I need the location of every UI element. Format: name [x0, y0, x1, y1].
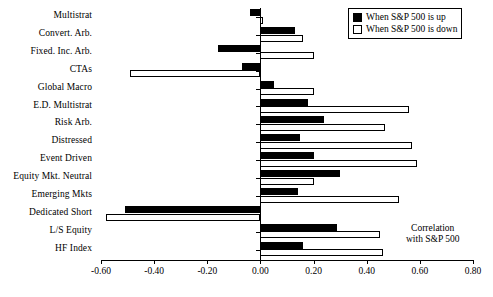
bar-sp500-up	[242, 63, 261, 70]
legend-swatch-up-icon	[353, 13, 362, 22]
category-axis-labels: MultistratConvert. Arb.Fixed. Inc. Arb.C…	[0, 0, 96, 260]
category-label: Fixed. Inc. Arb.	[31, 46, 93, 56]
category-tick	[256, 250, 260, 251]
legend-label-up: When S&P 500 is up	[366, 11, 446, 23]
bar-sp500-up	[260, 152, 313, 159]
legend-item-down: When S&P 500 is down	[353, 23, 457, 35]
bar-sp500-up	[260, 224, 337, 231]
category-tick	[256, 53, 260, 54]
bar-sp500-down	[260, 142, 411, 149]
x-axis-tick-label: 0.40	[358, 266, 375, 277]
category-label: Multistrat	[54, 10, 92, 20]
category-tick	[256, 214, 260, 215]
bar-sp500-up	[260, 81, 273, 88]
bar-sp500-down	[260, 231, 380, 238]
bar-sp500-up	[260, 134, 300, 141]
category-tick	[256, 106, 260, 107]
category-label: Emerging Mkts	[32, 189, 93, 199]
category-tick	[256, 142, 260, 143]
bar-sp500-down	[260, 249, 382, 256]
category-tick	[256, 196, 260, 197]
category-label: Dedicated Short	[29, 207, 92, 217]
category-tick	[256, 178, 260, 179]
bar-sp500-down	[260, 160, 417, 167]
legend-swatch-down-icon	[353, 25, 362, 34]
category-label: E.D. Multistrat	[33, 100, 92, 110]
x-axis-tick-label: 0.80	[465, 266, 482, 277]
x-axis-tick-label: -0.40	[144, 266, 164, 277]
x-axis-tick	[207, 260, 208, 264]
correlation-bar-chart: MultistratConvert. Arb.Fixed. Inc. Arb.C…	[0, 0, 493, 297]
category-label: CTAs	[70, 64, 92, 74]
category-tick	[256, 124, 260, 125]
x-axis-tick	[260, 260, 261, 264]
category-label: HF Index	[55, 243, 92, 253]
x-axis-tick-label: 0.20	[305, 266, 322, 277]
bar-sp500-down	[130, 70, 260, 77]
bar-sp500-up	[260, 170, 340, 177]
zero-axis-line	[260, 8, 261, 260]
category-label: Global Macro	[38, 82, 92, 92]
bar-sp500-down	[260, 196, 398, 203]
category-label: Convert. Arb.	[39, 28, 92, 38]
axis-annotation: Correlation with S&P 500	[406, 223, 460, 245]
x-axis-tick	[314, 260, 315, 264]
category-label: Equity Mkt. Neutral	[13, 171, 92, 181]
category-tick	[256, 89, 260, 90]
x-axis-line	[101, 260, 473, 261]
category-label: Risk Arb.	[55, 117, 92, 127]
bar-sp500-up	[260, 188, 297, 195]
legend-label-down: When S&P 500 is down	[366, 23, 457, 35]
legend: When S&P 500 is up When S&P 500 is down	[348, 8, 462, 39]
bar-sp500-down	[260, 52, 313, 59]
x-axis-tick	[473, 260, 474, 264]
x-axis-tick-label: 0.00	[252, 266, 269, 277]
x-axis-tick	[154, 260, 155, 264]
category-tick	[256, 160, 260, 161]
x-axis-tick	[101, 260, 102, 264]
x-axis-tick-label: -0.60	[91, 266, 111, 277]
bar-sp500-up	[260, 27, 295, 34]
category-label: Distressed	[51, 135, 92, 145]
x-axis-tick	[367, 260, 368, 264]
x-axis-tick-label: 0.60	[412, 266, 429, 277]
bar-sp500-down	[106, 214, 260, 221]
bar-sp500-down	[260, 35, 303, 42]
annotation-line-1: Correlation	[406, 223, 460, 234]
category-tick	[256, 35, 260, 36]
x-axis-tick	[420, 260, 421, 264]
bar-sp500-up	[218, 45, 261, 52]
bar-sp500-up	[260, 99, 308, 106]
bar-sp500-down	[260, 88, 313, 95]
x-axis-tick-label: -0.20	[197, 266, 217, 277]
annotation-line-2: with S&P 500	[406, 234, 460, 245]
bar-sp500-down	[260, 106, 409, 113]
bar-sp500-up	[260, 116, 324, 123]
category-tick	[256, 17, 260, 18]
bar-sp500-up	[250, 9, 261, 16]
category-label: Event Driven	[40, 153, 92, 163]
bar-sp500-up	[125, 206, 261, 213]
category-tick	[256, 71, 260, 72]
bar-sp500-down	[260, 178, 313, 185]
category-tick	[256, 232, 260, 233]
bar-sp500-up	[260, 242, 303, 249]
bar-sp500-down	[260, 124, 385, 131]
legend-item-up: When S&P 500 is up	[353, 11, 457, 23]
category-label: L/S Equity	[50, 225, 92, 235]
